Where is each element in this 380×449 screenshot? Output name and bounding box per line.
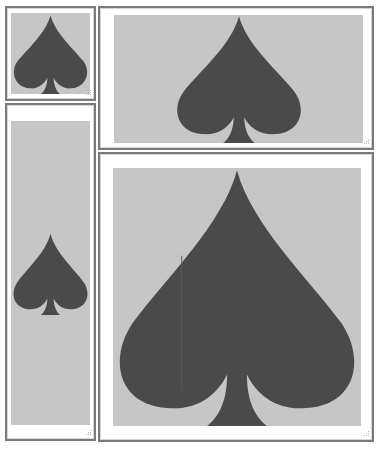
panel-bottom-right[interactable]	[98, 152, 374, 442]
resize-grip-icon[interactable]	[84, 89, 92, 97]
spade-icon	[113, 168, 361, 426]
spade-icon	[11, 13, 90, 94]
spade-icon	[173, 15, 305, 143]
spade-icon	[11, 233, 90, 315]
spade-image-top-left	[11, 13, 90, 94]
resize-grip-icon[interactable]	[362, 430, 370, 438]
panel-top-left[interactable]	[5, 6, 96, 101]
image-scaling-demo	[0, 0, 380, 449]
panel-left-tall[interactable]	[5, 103, 96, 441]
resize-grip-icon[interactable]	[362, 138, 370, 146]
spade-image-left-tall	[11, 121, 90, 425]
resize-grip-icon[interactable]	[84, 429, 92, 437]
spade-image-top-right	[114, 15, 363, 143]
spade-image-large	[113, 168, 361, 426]
panel-top-right[interactable]	[98, 6, 374, 150]
